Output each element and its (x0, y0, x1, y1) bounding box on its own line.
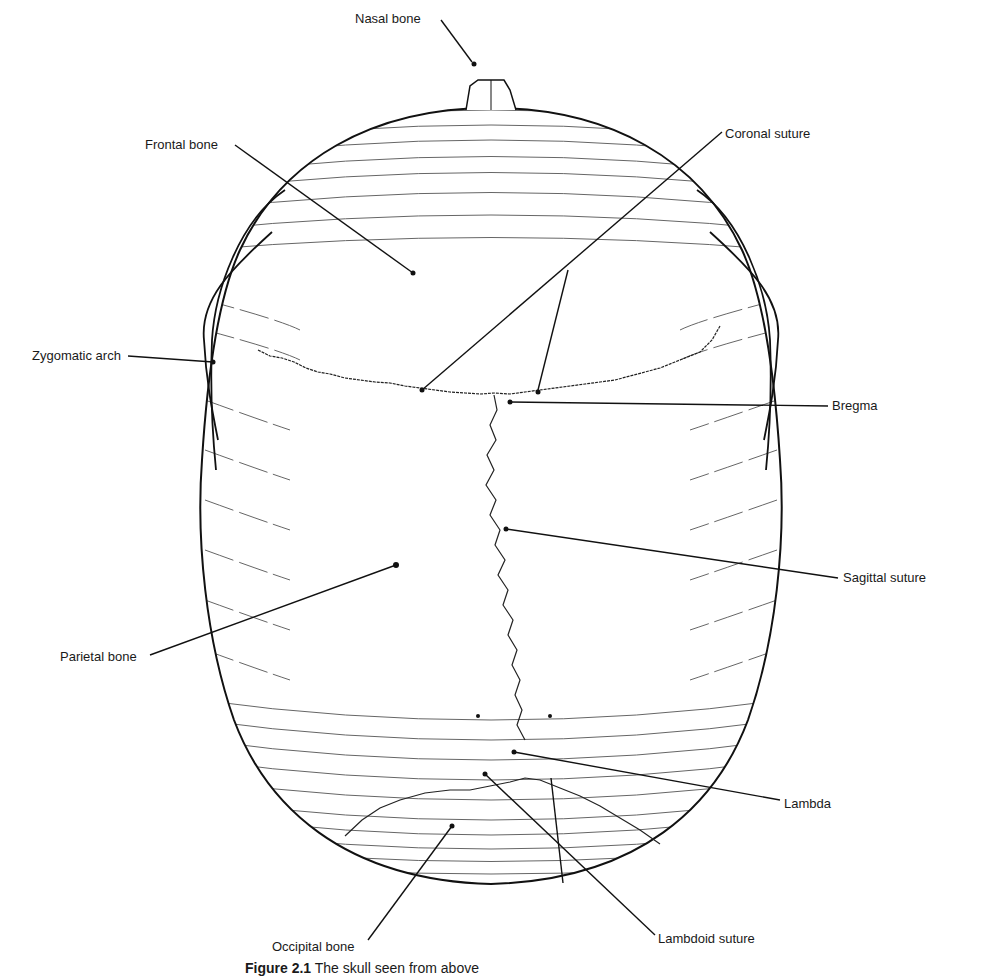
coronal-suture-line (258, 326, 720, 394)
label-sagittal-suture: Sagittal suture (843, 571, 926, 584)
sagittal-suture-line (486, 395, 525, 740)
caption-text: The skull seen from above (315, 960, 479, 976)
label-lambda: Lambda (784, 797, 831, 810)
label-nasal-bone: Nasal bone (355, 12, 421, 25)
label-occipital-bone: Occipital bone (272, 940, 354, 953)
label-coronal-suture: Coronal suture (725, 127, 810, 140)
caption-number: Figure 2.1 (245, 960, 311, 976)
figure-caption: Figure 2.1 The skull seen from above (245, 960, 479, 976)
label-zygomatic-arch: Zygomatic arch (32, 349, 121, 362)
lambdoid-suture-line (345, 778, 660, 844)
skull-outline (200, 108, 781, 884)
leader-dots (211, 62, 553, 829)
label-frontal-bone: Frontal bone (145, 138, 218, 151)
label-parietal-bone: Parietal bone (60, 650, 137, 663)
label-lambdoid-suture: Lambdoid suture (658, 932, 755, 945)
leader-lines (128, 20, 838, 940)
label-bregma: Bregma (832, 399, 878, 412)
